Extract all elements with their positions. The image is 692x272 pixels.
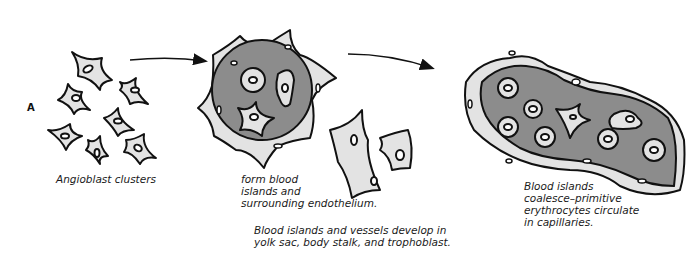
- angioblast-cell: [58, 84, 90, 114]
- angioblast-cell: [104, 108, 134, 136]
- capillary-caption: Blood islands coalesce–primitive erythro…: [524, 180, 639, 228]
- angiogenesis-diagram: A Angioblast clusters form blood islands…: [0, 0, 692, 272]
- angioblast-clusters-caption: Angioblast clusters: [56, 173, 156, 185]
- angioblast-cell: [124, 134, 156, 164]
- arrow-2-icon: [348, 54, 432, 68]
- panel-label: A: [27, 102, 35, 113]
- angioblast-cluster-group: [48, 52, 156, 164]
- blood-island-caption: form blood islands and surrounding endot…: [241, 173, 377, 209]
- angioblast-cell: [72, 52, 112, 90]
- angioblast-cell: [48, 124, 82, 150]
- angioblast-cell: [120, 78, 148, 104]
- angioblast-cell: [86, 136, 108, 164]
- bottom-note: Blood islands and vessels develop in yol…: [254, 224, 451, 248]
- arrow-1-icon: [130, 58, 205, 61]
- capillary-group: [465, 51, 685, 194]
